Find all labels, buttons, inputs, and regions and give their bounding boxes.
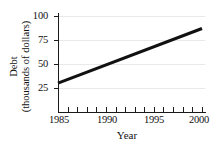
x-tick-mark-1994 <box>144 107 145 112</box>
y-tick-mark-25 <box>54 88 59 89</box>
x-tick-mark-1998 <box>183 107 184 112</box>
y-axis-line <box>58 13 59 113</box>
x-axis-line <box>58 112 206 113</box>
y-axis-title: Debt (thousands of dollars) <box>8 7 31 127</box>
x-tick-mark-1996 <box>163 107 164 112</box>
x-tick-mark-1987 <box>77 107 78 112</box>
x-tick-label-1995: 1995 <box>134 114 174 125</box>
y-axis-title-line1: Debt <box>8 7 20 127</box>
y-axis-title-line2: (thousands of dollars) <box>19 7 31 127</box>
y-tick-mark-50 <box>54 64 59 65</box>
x-tick-mark-1986 <box>68 107 69 112</box>
data-line-layer <box>0 0 215 149</box>
x-tick-mark-1988 <box>87 107 88 112</box>
x-tick-mark-1992 <box>125 107 126 112</box>
x-tick-mark-1993 <box>135 107 136 112</box>
y-tick-mark-100 <box>54 16 59 17</box>
x-tick-label-1985: 1985 <box>39 114 79 125</box>
x-tick-mark-2000 <box>202 107 203 112</box>
x-tick-mark-1999 <box>192 107 193 112</box>
x-tick-mark-1997 <box>173 107 174 112</box>
y-tick-mark-75 <box>54 40 59 41</box>
x-tick-mark-1990 <box>106 107 107 112</box>
x-tick-label-1990: 1990 <box>87 114 127 125</box>
x-tick-label-2000: 2000 <box>179 114 215 125</box>
x-tick-mark-1995 <box>154 107 155 112</box>
x-tick-mark-1985 <box>58 107 59 112</box>
x-tick-mark-1991 <box>116 107 117 112</box>
x-axis-title: Year <box>97 129 157 141</box>
series-line-debt <box>58 28 202 83</box>
debt-vs-year-chart: 100 75 50 25 1985 1990 1995 2000 Year De… <box>0 0 215 149</box>
x-tick-mark-1989 <box>96 107 97 112</box>
